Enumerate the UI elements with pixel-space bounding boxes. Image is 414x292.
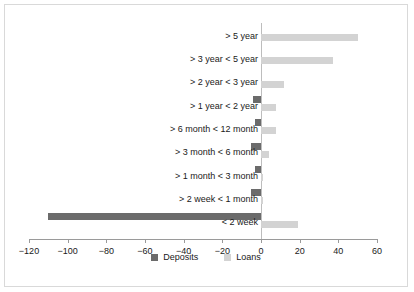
category-label: < 2 week: [222, 217, 258, 227]
legend-label: Loans: [236, 252, 261, 262]
category-label: > 3 month < 6 month: [175, 147, 258, 157]
bar-loans-3: [261, 104, 276, 111]
chart-frame: > 5 year> 3 year < 5 year> 2 year < 3 ye…: [4, 4, 408, 287]
x-axis-line: [29, 239, 377, 240]
legend-swatch-icon: [224, 254, 231, 261]
legend-swatch-icon: [151, 254, 158, 261]
category-label: > 6 month < 12 month: [170, 124, 258, 134]
category-label: > 2 year < 3 year: [190, 77, 258, 87]
x-axis-tick: [338, 239, 339, 243]
chart-legend: DepositsLoans: [5, 252, 407, 262]
category-label: > 1 year < 2 year: [190, 101, 258, 111]
x-axis-tick: [145, 239, 146, 243]
legend-item-loans[interactable]: Loans: [224, 252, 261, 262]
x-axis-tick: [68, 239, 69, 243]
x-axis-tick: [377, 239, 378, 243]
category-label: > 3 year < 5 year: [190, 54, 258, 64]
category-label: > 1 month < 3 month: [175, 171, 258, 181]
bar-loans-0: [261, 34, 358, 41]
bar-loans-2: [261, 81, 284, 88]
x-axis-tick: [300, 239, 301, 243]
bar-loans-7: [261, 197, 263, 204]
category-label: > 2 week < 1 month: [179, 194, 258, 204]
chart-plot-area: > 5 year> 3 year < 5 year> 2 year < 3 ye…: [5, 5, 409, 288]
bar-loans-8: [261, 221, 298, 228]
bar-loans-1: [261, 57, 333, 64]
x-axis-tick: [261, 239, 262, 243]
bar-loans-6: [261, 174, 263, 181]
x-axis-tick: [106, 239, 107, 243]
category-label: > 5 year: [225, 31, 258, 41]
legend-item-deposits[interactable]: Deposits: [151, 252, 198, 262]
bar-loans-5: [261, 151, 269, 158]
bar-loans-4: [261, 127, 276, 134]
x-axis-tick: [184, 239, 185, 243]
x-axis-tick: [222, 239, 223, 243]
x-axis-tick: [29, 239, 30, 243]
legend-label: Deposits: [163, 252, 198, 262]
